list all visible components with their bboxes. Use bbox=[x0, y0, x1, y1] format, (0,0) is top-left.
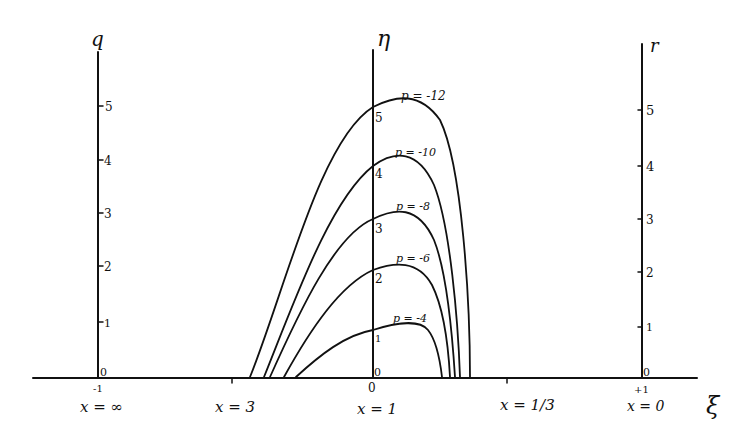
eta-tick-5: 5 bbox=[375, 111, 383, 125]
curve-p-minus-4 bbox=[296, 323, 442, 377]
q-tick-1: 1 bbox=[104, 317, 111, 330]
r-tick-2: 2 bbox=[646, 266, 654, 280]
eta-tick-0: 0 bbox=[374, 366, 381, 379]
tick-bottom-x-1: x = 1 bbox=[357, 400, 397, 418]
curve-labels: p = -4 p = -6 p = -8 p = -10 p = -12 bbox=[393, 89, 446, 325]
q-tick-0: 0 bbox=[100, 366, 107, 379]
eta-axis-label: η bbox=[377, 26, 390, 51]
eta-tick-3: 3 bbox=[375, 222, 383, 236]
curve-p-minus-10 bbox=[264, 156, 460, 377]
r-axis-label: r bbox=[650, 35, 660, 56]
label-p-minus-10: p = -10 bbox=[395, 146, 436, 159]
label-p-minus-8: p = -8 bbox=[396, 200, 430, 213]
label-p-minus-12: p = -12 bbox=[401, 89, 446, 103]
tick-top-plus-one: +1 bbox=[634, 384, 649, 395]
r-axis: r 0 1 2 3 4 5 bbox=[638, 35, 660, 379]
xi-tick-labels: -1 x = ∞ x = 3 0 x = 1 x = 1/3 +1 x = 0 bbox=[80, 381, 665, 418]
tick-bottom-x-3: x = 3 bbox=[215, 398, 255, 416]
tick-bottom-x-0: x = 0 bbox=[627, 398, 665, 414]
label-p-minus-4: p = -4 bbox=[393, 312, 427, 325]
eta-tick-2: 2 bbox=[375, 272, 383, 286]
curve-family bbox=[250, 98, 470, 377]
curve-family-diagram: ξ -1 x = ∞ x = 3 0 x = 1 x = 1/3 +1 x = … bbox=[0, 0, 733, 435]
curve-p-minus-12 bbox=[250, 98, 470, 377]
r-tick-5: 5 bbox=[646, 103, 654, 118]
q-tick-4: 4 bbox=[104, 154, 112, 168]
tick-bottom-x-one-third: x = 1/3 bbox=[500, 396, 555, 414]
eta-tick-1: 1 bbox=[375, 333, 381, 344]
q-axis: q 0 1 2 3 4 5 bbox=[91, 27, 113, 379]
eta-tick-4: 4 bbox=[375, 167, 383, 181]
tick-top-minus-one: -1 bbox=[93, 383, 103, 394]
q-axis-label: q bbox=[91, 27, 104, 51]
q-tick-3: 3 bbox=[104, 207, 112, 221]
r-tick-1: 1 bbox=[646, 321, 653, 334]
r-tick-0: 0 bbox=[643, 366, 650, 379]
tick-bottom-x-infinity: x = ∞ bbox=[80, 398, 123, 416]
label-p-minus-6: p = -6 bbox=[396, 252, 430, 265]
tick-top-zero: 0 bbox=[368, 381, 376, 395]
xi-axis-label: ξ bbox=[706, 392, 721, 420]
r-tick-3: 3 bbox=[646, 213, 654, 227]
r-tick-4: 4 bbox=[646, 159, 654, 174]
q-tick-2: 2 bbox=[104, 260, 112, 274]
q-tick-5: 5 bbox=[105, 100, 113, 114]
